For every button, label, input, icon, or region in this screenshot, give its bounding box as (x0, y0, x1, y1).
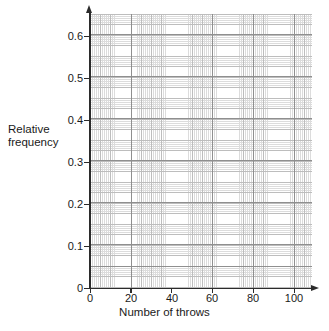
y-axis-arrow-icon (86, 5, 92, 13)
y-tick-label: 0.3 (68, 157, 83, 168)
x-axis-title: Number of throws (0, 306, 329, 318)
x-tick-label: 20 (125, 293, 137, 304)
y-tick-label: 0 (77, 283, 83, 294)
plot-area (90, 14, 312, 288)
relative-frequency-chart: 0 0.1 0.2 0.3 0.4 0.5 0.6 0 20 40 60 80 … (0, 0, 329, 331)
y-tick-label: 0.1 (68, 241, 83, 252)
x-tick-label: 60 (206, 293, 218, 304)
y-axis-title: Relative frequency (8, 123, 80, 149)
y-axis-title-line2: frequency (8, 136, 80, 149)
y-tick-mark (84, 78, 90, 79)
y-tick-label: 0.5 (68, 73, 83, 84)
grid-major-lines (90, 14, 312, 288)
y-tick-mark (84, 36, 90, 37)
x-axis-line (89, 288, 312, 290)
x-tick-label: 0 (87, 293, 93, 304)
x-tick-label: 80 (247, 293, 259, 304)
y-axis-title-line1: Relative (8, 123, 80, 136)
y-axis-line (89, 12, 91, 289)
y-tick-mark (84, 246, 90, 247)
y-tick-mark (84, 204, 90, 205)
y-tick-label: 0.2 (68, 199, 83, 210)
x-tick-label: 100 (285, 293, 303, 304)
x-axis-arrow-icon (311, 285, 319, 291)
x-tick-label: 40 (166, 293, 178, 304)
y-tick-mark (84, 120, 90, 121)
y-tick-label: 0.6 (68, 31, 83, 42)
y-tick-mark (84, 162, 90, 163)
